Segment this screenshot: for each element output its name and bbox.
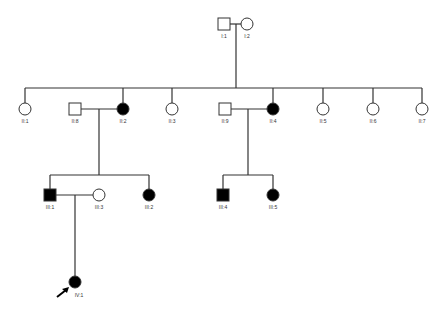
individual-II-7 [416, 103, 428, 115]
individual-III-4 [217, 189, 229, 201]
individual-II-3 [166, 103, 178, 115]
individual-II-8 [69, 103, 81, 115]
label-II-4: II:4 [270, 118, 277, 124]
individual-II-2 [117, 103, 129, 115]
pedigree-diagram [0, 0, 445, 319]
label-II-6: II:6 [370, 118, 377, 124]
label-III-3: III:3 [95, 204, 103, 210]
individual-I-1 [218, 18, 230, 30]
label-II-9: II:9 [222, 118, 229, 124]
label-II-2: II:2 [120, 118, 127, 124]
label-II-5: II:5 [320, 118, 327, 124]
label-I-1: I:1 [221, 33, 227, 39]
label-III-5: III:5 [269, 204, 277, 210]
label-II-8: II:8 [72, 118, 79, 124]
individual-II-5 [317, 103, 329, 115]
label-II-7: II:7 [419, 118, 426, 124]
label-III-1: III:1 [46, 204, 54, 210]
individual-III-5 [267, 189, 279, 201]
individual-III-3 [93, 189, 105, 201]
label-III-4: III:4 [219, 204, 227, 210]
label-I-2: I:2 [244, 33, 250, 39]
individual-I-2 [241, 18, 253, 30]
individual-II-9 [219, 103, 231, 115]
label-II-3: II:3 [169, 118, 176, 124]
individual-II-6 [367, 103, 379, 115]
individual-III-2 [143, 189, 155, 201]
proband-arrow-icon [57, 287, 69, 297]
individual-III-1 [44, 189, 56, 201]
label-III-2: III:2 [145, 204, 153, 210]
label-IV-1: IV:1 [75, 292, 84, 298]
connector-lines [25, 24, 422, 276]
individual-II-1 [19, 103, 31, 115]
individual-II-4 [267, 103, 279, 115]
individual-IV-1 [69, 276, 81, 288]
label-II-1: II:1 [22, 118, 29, 124]
